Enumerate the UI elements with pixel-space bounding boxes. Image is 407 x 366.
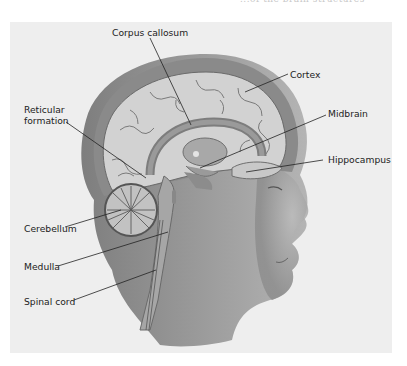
label-midbrain: Midbrain xyxy=(328,108,368,119)
label-cerebellum: Cerebellum xyxy=(24,223,77,234)
label-hippocampus: Hippocampus xyxy=(328,154,391,165)
label-corpus-callosum: Corpus callosum xyxy=(112,27,188,38)
brain-illustration xyxy=(0,0,407,366)
cerebellum xyxy=(105,184,157,236)
label-cortex: Cortex xyxy=(290,69,320,80)
label-medulla: Medulla xyxy=(24,261,60,272)
label-reticular-formation-line1: Reticular xyxy=(24,104,65,115)
label-reticular-formation-line2: formation xyxy=(24,115,69,126)
label-spinal-cord: Spinal cord xyxy=(24,296,75,307)
